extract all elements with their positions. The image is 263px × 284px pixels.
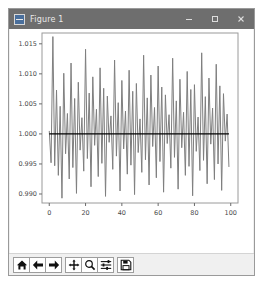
- home-icon[interactable]: [13, 257, 30, 273]
- x-tick-label: 0: [47, 209, 51, 217]
- x-tick-label: 40: [118, 209, 126, 217]
- close-button[interactable]: [228, 9, 254, 29]
- zoom-magnifier-icon[interactable]: [81, 257, 98, 273]
- plot-axes[interactable]: 020406080100 0.9900.9951.0001.0051.0101.…: [10, 29, 253, 241]
- forward-arrow-icon[interactable]: [45, 257, 62, 273]
- minimize-button[interactable]: [176, 9, 202, 29]
- x-tick-label: 100: [225, 209, 237, 217]
- y-tick-label: 0.990: [18, 190, 37, 198]
- plot-svg: 020406080100 0.9900.9951.0001.0051.0101.…: [10, 29, 253, 241]
- back-arrow-icon[interactable]: [29, 257, 46, 273]
- x-tick-label: 20: [81, 209, 89, 217]
- y-tick-label: 1.010: [18, 70, 37, 78]
- navigation-toolbar: [9, 253, 254, 275]
- figure-canvas[interactable]: 020406080100 0.9900.9951.0001.0051.0101.…: [10, 29, 253, 253]
- window-controls: [176, 9, 254, 29]
- y-tick-label: 1.015: [18, 40, 37, 48]
- x-axis-ticks: 020406080100: [47, 203, 237, 217]
- maximize-button[interactable]: [202, 9, 228, 29]
- y-tick-label: 1.005: [18, 100, 37, 108]
- title-bar[interactable]: Figure 1: [9, 9, 254, 29]
- y-tick-label: 1.000: [18, 130, 37, 138]
- y-axis-ticks: 0.9900.9951.0001.0051.0101.015: [18, 40, 42, 198]
- y-tick-label: 0.995: [18, 160, 37, 168]
- series-layer: [49, 37, 229, 199]
- figure-window: Figure 1 0: [8, 8, 255, 276]
- save-floppy-icon[interactable]: [117, 257, 134, 273]
- series-noisy-signal: [49, 37, 229, 199]
- matplotlib-figure-icon: [14, 14, 25, 25]
- pan-move-icon[interactable]: [65, 257, 82, 273]
- window-title: Figure 1: [30, 15, 64, 24]
- x-tick-label: 80: [190, 209, 198, 217]
- x-tick-label: 60: [154, 209, 162, 217]
- configure-subplots-icon[interactable]: [97, 257, 114, 273]
